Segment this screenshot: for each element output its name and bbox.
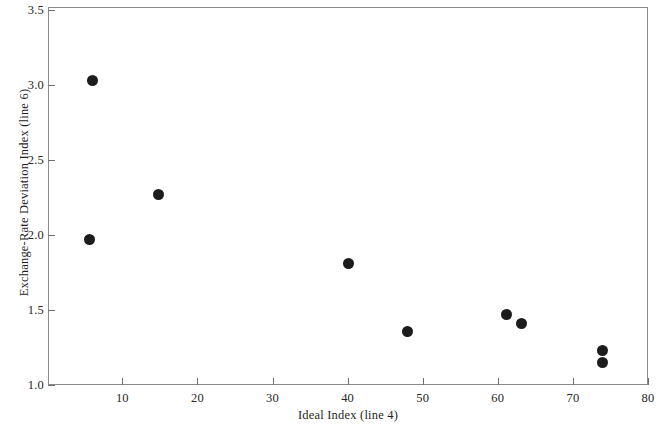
plot-frame [48, 7, 648, 385]
x-tick-label: 70 [553, 392, 593, 405]
scatter-plot-figure: 1.01.52.02.53.03.5 1020304050607080 Idea… [0, 0, 657, 426]
x-tick-label: 40 [328, 392, 368, 405]
x-tick-mark [423, 378, 424, 385]
x-tick-label: 50 [403, 392, 443, 405]
x-tick-mark [348, 378, 349, 385]
y-tick-mark [48, 385, 55, 386]
x-tick-mark [573, 378, 574, 385]
y-tick-mark [48, 10, 55, 11]
x-tick-label: 30 [253, 392, 293, 405]
x-tick-mark [273, 378, 274, 385]
x-tick-label: 20 [177, 392, 217, 405]
x-tick-mark [122, 378, 123, 385]
x-tick-mark [197, 378, 198, 385]
y-axis-title: Exchange-Rate Deviation Index (line 6) [18, 0, 31, 393]
x-axis-tick-labels: 1020304050607080 [48, 392, 648, 408]
y-tick-mark [48, 85, 55, 86]
x-tick-mark [498, 378, 499, 385]
x-tick-mark [648, 378, 649, 385]
x-axis-title: Ideal Index (line 4) [48, 409, 648, 422]
x-tick-label: 10 [102, 392, 142, 405]
x-tick-label: 60 [478, 392, 518, 405]
y-tick-mark [48, 310, 55, 311]
x-tick-label: 80 [628, 392, 657, 405]
y-tick-mark [48, 160, 55, 161]
y-tick-mark [48, 235, 55, 236]
